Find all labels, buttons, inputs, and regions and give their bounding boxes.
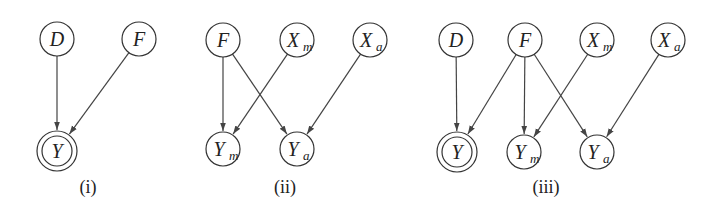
caption-graph-2: (ii) bbox=[274, 177, 296, 198]
node-label: X bbox=[286, 29, 300, 51]
node-label: F bbox=[518, 29, 532, 51]
node-label: Y bbox=[213, 138, 226, 160]
node-Xm: Xm bbox=[580, 23, 614, 57]
node-D: D bbox=[439, 23, 473, 57]
node-label: X bbox=[657, 29, 671, 51]
node-label: F bbox=[216, 29, 230, 51]
edge-F-to-Y bbox=[69, 53, 129, 134]
causal-graphs-figure: DFYFXmXaYmYaDFXmXaYYmYa (i)(ii)(iii) bbox=[0, 0, 723, 209]
node-Xa: Xa bbox=[651, 23, 685, 57]
node-Ya: Ya bbox=[280, 132, 314, 166]
node-Y: Y bbox=[437, 132, 477, 172]
edge-F-to-Ym bbox=[524, 57, 525, 134]
diagram-canvas: DFYFXmXaYmYaDFXmXaYYmYa (i)(ii)(iii) bbox=[0, 0, 723, 209]
edge-D-to-Y bbox=[456, 57, 457, 131]
edge-F-to-Y bbox=[468, 55, 516, 135]
node-subscript: a bbox=[376, 39, 383, 54]
caption-graph-3: (iii) bbox=[533, 177, 560, 198]
node-label: X bbox=[586, 29, 600, 51]
node-label: Y bbox=[514, 141, 527, 163]
node-label: D bbox=[49, 28, 65, 50]
node-subscript: m bbox=[603, 39, 612, 54]
node-F: F bbox=[122, 22, 156, 56]
node-subscript: m bbox=[303, 39, 312, 54]
node-subscript: m bbox=[530, 151, 539, 166]
node-Ym: Ym bbox=[206, 132, 240, 166]
caption-graph-1: (i) bbox=[80, 177, 97, 198]
node-Xm: Xm bbox=[280, 23, 314, 57]
node-subscript: a bbox=[303, 148, 310, 163]
node-label: Y bbox=[451, 141, 464, 163]
node-F: F bbox=[508, 23, 542, 57]
node-label: Y bbox=[587, 141, 600, 163]
node-Xa: Xa bbox=[353, 23, 387, 57]
edge-Xa-to-Ya bbox=[307, 54, 361, 134]
node-subscript: a bbox=[674, 39, 681, 54]
node-label: Y bbox=[287, 138, 300, 160]
node-subscript: a bbox=[603, 151, 610, 166]
node-label: Y bbox=[51, 140, 64, 162]
node-Y: Y bbox=[37, 131, 77, 171]
node-subscript: m bbox=[229, 148, 238, 163]
node-Ym: Ym bbox=[507, 135, 541, 169]
node-label: D bbox=[448, 29, 464, 51]
node-D: D bbox=[40, 22, 74, 56]
captions-layer: (i)(ii)(iii) bbox=[80, 177, 560, 198]
edges-layer bbox=[57, 53, 659, 137]
node-label: X bbox=[359, 29, 373, 51]
nodes-layer: DFYFXmXaYmYaDFXmXaYYmYa bbox=[37, 22, 685, 172]
node-Ya: Ya bbox=[580, 135, 614, 169]
edge-Xa-to-Ya bbox=[607, 54, 659, 136]
node-F: F bbox=[206, 23, 240, 57]
node-label: F bbox=[132, 28, 146, 50]
